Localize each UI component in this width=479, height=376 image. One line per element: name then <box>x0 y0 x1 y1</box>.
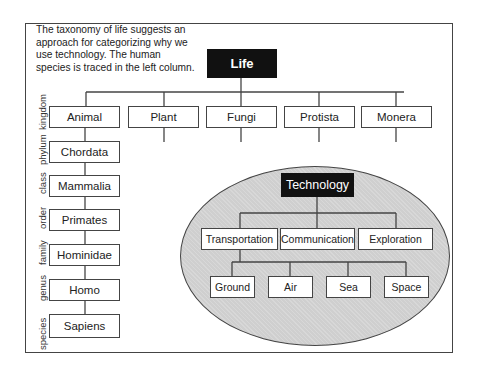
transport-mode-sea: Sea <box>326 276 371 298</box>
tech-category-communication: Communication <box>280 228 355 250</box>
tech-category-exploration: Exploration <box>358 228 433 250</box>
transport-mode-air: Air <box>268 276 313 298</box>
tech-category-transportation: Transportation <box>201 228 278 250</box>
technology-root-node: Technology <box>281 173 354 197</box>
transport-mode-ground: Ground <box>210 276 255 298</box>
technology-connector-lines <box>0 0 479 376</box>
transport-mode-space: Space <box>384 276 429 298</box>
